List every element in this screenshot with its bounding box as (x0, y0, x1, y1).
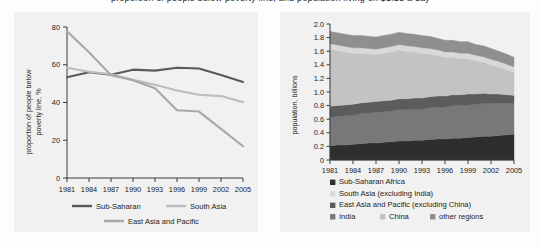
right-y-tick-label: 0.6 (314, 115, 324, 124)
left-y-axis-title-line1: proportion of people below (24, 69, 33, 155)
left-y-tick-label: 80 (52, 23, 60, 32)
right-y-tick-label: 0.4 (314, 128, 324, 137)
right-x-tick-label: 1993 (414, 166, 430, 175)
left-y-tick-label: 20 (52, 136, 60, 145)
right-y-tick-label: 2.0 (314, 20, 324, 29)
figure-root: proportion of people below poverty line,… (0, 0, 541, 248)
right-y-tick-label: 1.2 (314, 74, 324, 83)
right-x-tick-label: 1984 (345, 166, 361, 175)
left-x-tick-label: 2005 (235, 185, 251, 194)
left-x-tick-label: 2002 (213, 185, 229, 194)
left-x-tick-label: 1993 (147, 185, 163, 194)
right-y-tick-label: 1.6 (314, 47, 324, 56)
left-chart-background (14, 12, 258, 232)
right-x-tick-label: 2005 (506, 166, 522, 175)
right-legend-swatch (430, 214, 435, 219)
right-legend-label: other regions (439, 212, 484, 221)
left-legend-label: East Asia and Pacific (128, 217, 199, 226)
right-legend-swatch (330, 180, 335, 185)
left-y-tick-label: 60 (52, 60, 60, 69)
right-legend-label: India (339, 212, 356, 221)
right-y-axis-title: population, billions (290, 75, 299, 135)
left-x-tick-label: 1996 (169, 185, 185, 194)
right-y-tick-label: 0.2 (314, 142, 324, 151)
right-x-tick-label: 1987 (368, 166, 384, 175)
left-y-tick-label: 40 (52, 98, 60, 107)
right-x-tick-label: 1990 (391, 166, 407, 175)
left-x-tick-label: 1990 (125, 185, 141, 194)
left-legend-label: South Asia (190, 202, 227, 211)
right-chart-svg: population, billions 00.20.40.60.81.01.2… (272, 0, 541, 248)
right-y-tick-label: 0.8 (314, 101, 324, 110)
right-legend-label: South Asia (excluding India) (339, 189, 434, 198)
left-legend-label: Sub-Saharan (96, 202, 141, 211)
left-x-tick-label: 1984 (81, 185, 97, 194)
right-legend-label: China (389, 212, 410, 221)
right-legend-swatch (330, 203, 335, 208)
right-legend-label: East Asia and Pacific (excluding China) (339, 200, 472, 209)
right-x-tick-label: 1981 (322, 166, 338, 175)
right-x-tick-label: 1996 (437, 166, 453, 175)
left-x-tick-label: 1981 (59, 185, 75, 194)
poverty-rate-line-chart: proportion of people below poverty line,… (0, 0, 272, 248)
right-y-tick-label: 1.4 (314, 60, 324, 69)
right-legend-swatch (330, 191, 335, 196)
left-y-axis-title-line2: poverty line, % (34, 88, 43, 136)
right-legend-label: Sub-Saharan Africa (339, 177, 406, 186)
left-x-tick-label: 1999 (191, 185, 207, 194)
right-legend-swatch (330, 214, 335, 219)
left-y-tick-label: 0 (56, 174, 60, 183)
right-x-tick-label: 1999 (460, 166, 476, 175)
right-legend-swatch (380, 214, 385, 219)
right-y-tick-label: 1.8 (314, 33, 324, 42)
population-stacked-area-chart: population, billions 00.20.40.60.81.01.2… (272, 0, 541, 248)
right-x-tick-label: 2002 (483, 166, 499, 175)
right-y-tick-label: 1.0 (314, 88, 324, 97)
right-series-group (330, 31, 514, 160)
left-x-tick-label: 1987 (103, 185, 119, 194)
right-y-tick-label: 0 (320, 156, 324, 165)
left-chart-svg: proportion of people below poverty line,… (0, 0, 272, 248)
